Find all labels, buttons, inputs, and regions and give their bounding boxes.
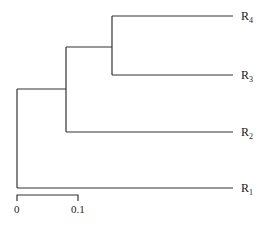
- scale-end-label: 0.1: [71, 203, 85, 215]
- scale-start-label: 0: [14, 203, 20, 215]
- leaf-label-r3: R3: [241, 68, 253, 84]
- phylogenetic-tree: R4 R3 R2 R1 0 0.1: [0, 0, 265, 229]
- root-node: [17, 89, 66, 188]
- scale-bar: 0 0.1: [14, 195, 85, 215]
- leaf-label-r1: R1: [241, 181, 253, 197]
- leaf-label-r2: R2: [241, 125, 253, 141]
- leaf-label-r4: R4: [241, 9, 253, 25]
- internal-node-r2-r3-r4: [66, 47, 112, 132]
